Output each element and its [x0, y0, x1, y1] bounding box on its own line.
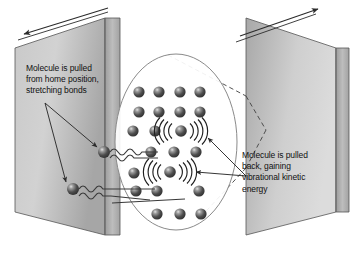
molecule [153, 86, 164, 97]
molecule [190, 146, 201, 157]
molecule [194, 106, 205, 117]
molecule [153, 106, 164, 117]
right-plate [246, 18, 349, 235]
wall-molecule-lower [67, 183, 79, 195]
molecule [174, 106, 185, 117]
molecule [168, 146, 179, 157]
molecule [151, 185, 162, 196]
molecule [174, 86, 185, 97]
left-caption: Molecule is pulled from home position, s… [26, 63, 134, 97]
molecule [128, 167, 139, 178]
molecule [175, 125, 187, 137]
left-plate [15, 18, 120, 235]
molecule [194, 86, 205, 97]
molecule [193, 185, 204, 196]
molecule [174, 208, 185, 219]
molecule [133, 106, 144, 117]
molecule [133, 86, 144, 97]
molecule [130, 185, 141, 196]
molecule [127, 125, 138, 136]
molecule [151, 208, 162, 219]
molecule [195, 208, 206, 219]
right-caption: Molecule is pulled back, gaining vibrati… [242, 150, 346, 195]
molecular-stretching-diagram [0, 0, 351, 253]
diagram-canvas [0, 0, 351, 253]
left-plate-face [15, 18, 105, 235]
right-plate-face [246, 18, 336, 235]
wall-molecule-upper [98, 146, 110, 158]
molecule [164, 166, 176, 178]
